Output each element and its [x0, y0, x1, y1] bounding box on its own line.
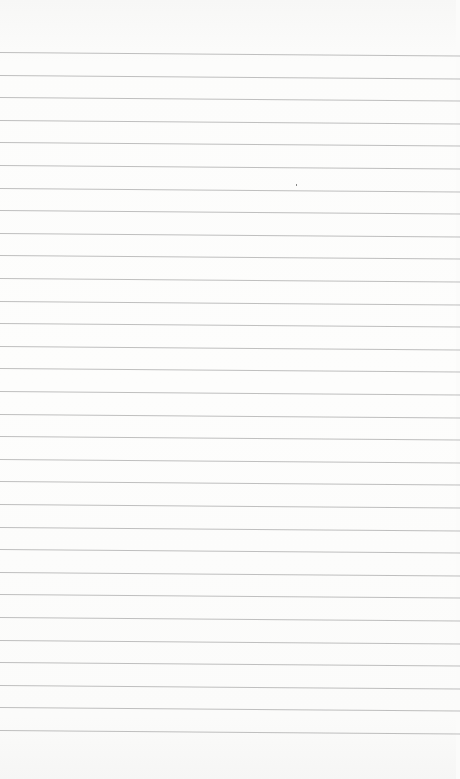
- ruled-line: [0, 233, 460, 238]
- ruled-line: [0, 165, 460, 170]
- ruled-line: [0, 436, 460, 441]
- ruled-line: [0, 142, 460, 147]
- ruled-line: [0, 730, 460, 735]
- ruled-line: [0, 414, 460, 419]
- ruled-line: [0, 459, 460, 464]
- paper-speck: [296, 184, 297, 186]
- ruled-line: [0, 120, 460, 125]
- ruled-line: [0, 301, 460, 306]
- ruled-line: [0, 97, 460, 102]
- ruled-line: [0, 527, 460, 532]
- ruled-line: [0, 368, 460, 373]
- ruled-line: [0, 255, 460, 260]
- ruled-line: [0, 391, 460, 396]
- ruled-line: [0, 549, 460, 554]
- ruled-line: [0, 52, 460, 57]
- ruled-line: [0, 594, 460, 599]
- ruled-line: [0, 662, 460, 667]
- ruled-line: [0, 323, 460, 328]
- ruled-line: [0, 572, 460, 577]
- ruled-line: [0, 640, 460, 645]
- ruled-line: [0, 188, 460, 193]
- ruled-line: [0, 617, 460, 622]
- ruled-line: [0, 707, 460, 712]
- ruled-line: [0, 210, 460, 215]
- ruled-line: [0, 346, 460, 351]
- ruled-line: [0, 278, 460, 283]
- ruled-line: [0, 504, 460, 509]
- ruled-line: [0, 75, 460, 80]
- ruled-line: [0, 481, 460, 486]
- ruled-line: [0, 685, 460, 690]
